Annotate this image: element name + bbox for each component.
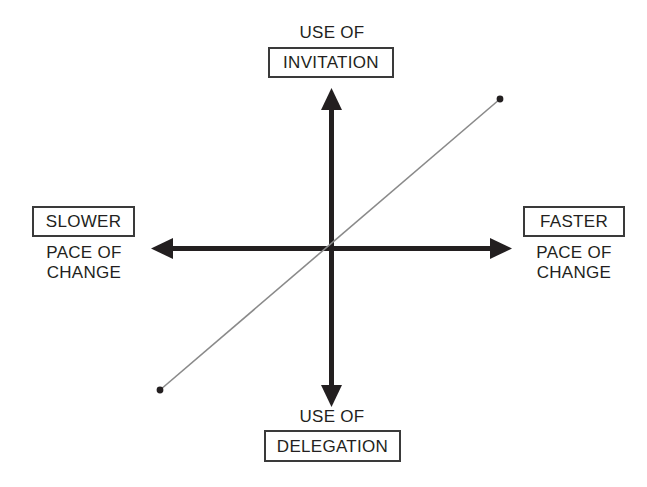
- arrowhead-right-icon: [490, 238, 512, 259]
- trend-endpoint-upper-right: [497, 96, 504, 103]
- right-axis-caption: PACE OF CHANGE: [518, 243, 630, 283]
- trend-endpoint-lower-left: [157, 387, 164, 394]
- bottom-axis-label-box: DELEGATION: [264, 430, 401, 462]
- left-axis-label-box: SLOWER: [32, 206, 135, 237]
- arrowhead-down-icon: [321, 385, 342, 407]
- top-axis-label-box: INVITATION: [268, 47, 394, 78]
- top-axis-caption: USE OF: [276, 23, 388, 43]
- diagram-canvas: USE OF INVITATION SLOWER PACE OF CHANGE …: [0, 0, 647, 487]
- arrowhead-left-icon: [151, 238, 173, 259]
- right-axis-label-box: FASTER: [523, 206, 625, 237]
- bottom-axis-caption: USE OF: [276, 407, 388, 427]
- left-axis-caption: PACE OF CHANGE: [28, 243, 140, 283]
- arrowhead-up-icon: [321, 88, 342, 110]
